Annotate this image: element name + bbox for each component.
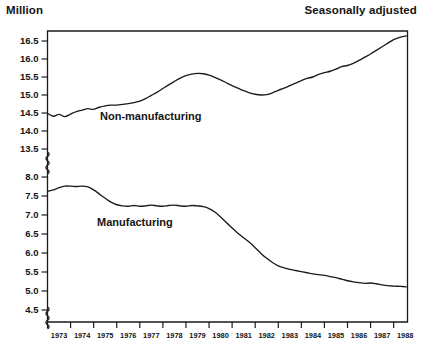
y-tick-label: 6.0	[25, 247, 38, 258]
y-tick-label: 15.0	[20, 89, 39, 100]
x-tick-label: 1981	[235, 331, 251, 340]
x-tick-label: 1982	[259, 331, 275, 340]
series-label-1: Non-manufacturing	[100, 110, 201, 122]
plot-frame	[48, 31, 408, 322]
y-tick-label: 15.5	[20, 71, 39, 82]
x-tick-label: 1984	[305, 331, 322, 340]
y-tick-label: 16.5	[20, 35, 39, 46]
series-inline-labels: Non-manufacturingManufacturing	[97, 110, 201, 228]
chart-container: Million Seasonally adjusted 16.516.015.5…	[0, 0, 423, 350]
y-tick-label: 8.0	[25, 171, 38, 182]
x-tick-label: 1978	[166, 331, 182, 340]
series-label-2: Manufacturing	[97, 216, 173, 228]
y-tick-label: 5.0	[25, 285, 38, 296]
y-axis-tick-labels: 16.516.015.515.014.514.013.58.07.57.06.5…	[20, 35, 39, 315]
x-tick-label: 1980	[212, 331, 228, 340]
x-tick-label: 1979	[189, 331, 205, 340]
x-tick-label: 1976	[120, 331, 136, 340]
x-tick-label: 1975	[97, 331, 113, 340]
x-tick-label: 1987	[374, 331, 390, 340]
axis-ticks	[42, 41, 394, 328]
x-tick-label: 1986	[351, 331, 367, 340]
y-tick-label: 6.5	[25, 228, 39, 239]
series-line-1	[48, 36, 407, 117]
x-tick-label: 1988	[397, 331, 413, 340]
y-tick-label: 7.5	[25, 190, 39, 201]
series-line-2	[48, 186, 407, 287]
x-tick-label: 1983	[282, 331, 298, 340]
x-axis-tick-labels: 1973197419751976197719781979198019811982…	[51, 331, 414, 340]
y-tick-label: 7.0	[25, 209, 38, 220]
x-tick-label: 1974	[74, 331, 91, 340]
line-chart-plot: 16.516.015.515.014.514.013.58.07.57.06.5…	[0, 0, 423, 350]
y-tick-label: 14.0	[20, 125, 39, 136]
y-tick-label: 14.5	[20, 107, 39, 118]
data-series-lines	[48, 36, 407, 287]
y-tick-label: 4.5	[25, 304, 39, 315]
x-tick-label: 1985	[328, 331, 344, 340]
y-tick-label: 16.0	[20, 53, 39, 64]
x-tick-label: 1977	[143, 331, 159, 340]
y-tick-label: 5.5	[25, 266, 39, 277]
y-tick-label: 13.5	[20, 143, 39, 154]
x-tick-label: 1973	[51, 331, 67, 340]
